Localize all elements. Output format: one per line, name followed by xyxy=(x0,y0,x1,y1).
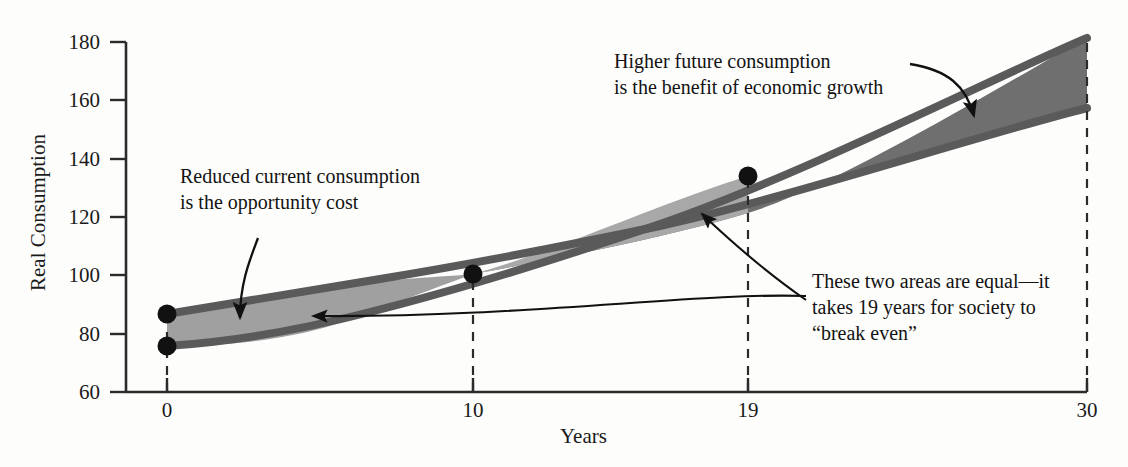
benefit-annotation: Higher future consumption is the benefit… xyxy=(614,48,883,100)
y-tick-label-80: 80 xyxy=(40,322,100,347)
marker-crossover-point xyxy=(464,265,483,284)
chart-plot-area xyxy=(0,0,1128,467)
x-tick-label-10: 10 xyxy=(453,398,493,423)
x-axis-title: Years xyxy=(560,424,607,449)
break-even-leader-arrow-right xyxy=(702,214,806,300)
x-tick-label-0: 0 xyxy=(147,398,187,423)
x-tick-label-30: 30 xyxy=(1067,398,1107,423)
marker-break-even-point xyxy=(739,167,758,186)
y-axis-title: Real Consumption xyxy=(26,123,51,303)
y-axis-ticks xyxy=(110,42,126,392)
y-tick-label-180: 180 xyxy=(40,30,100,55)
marker-start-high-consumption xyxy=(158,305,177,324)
marker-start-low-consumption xyxy=(158,337,177,356)
break-even-annotation: These two areas are equal—it takes 19 ye… xyxy=(812,268,1050,346)
break-even-wedge xyxy=(473,176,748,274)
y-tick-label-60: 60 xyxy=(40,380,100,405)
chart-figure: 180 160 140 120 100 80 60 0 10 19 30 Rea… xyxy=(0,0,1128,467)
x-tick-label-19: 19 xyxy=(728,398,768,423)
opportunity-cost-annotation: Reduced current consumption is the oppor… xyxy=(180,163,420,215)
y-tick-label-160: 160 xyxy=(40,88,100,113)
x-axis-ticks xyxy=(167,378,1087,392)
